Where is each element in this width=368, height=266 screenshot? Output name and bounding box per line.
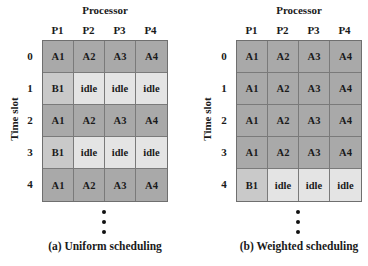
- schedule-cell: A2: [268, 41, 299, 73]
- time-slot-axis-label: Time slot: [201, 93, 213, 145]
- continuation-dot: [296, 220, 300, 224]
- schedule-cell: A1: [237, 105, 268, 137]
- row-number: 4: [218, 178, 230, 190]
- schedule-grid: A1A2A3A4A1A2A3A4A1A2A3A4A1A2A3A4B1idleid…: [236, 40, 362, 202]
- row-number: 0: [218, 50, 230, 62]
- schedule-cell: idle: [299, 169, 330, 201]
- column-header-p4: P4: [329, 24, 360, 36]
- schedule-cell: A4: [330, 41, 361, 73]
- continuation-dot: [296, 230, 300, 234]
- schedule-cell: A3: [299, 105, 330, 137]
- schedule-cell: A1: [237, 137, 268, 169]
- schedule-cell: A2: [268, 73, 299, 105]
- schedule-cell: idle: [268, 169, 299, 201]
- schedule-cell: A3: [299, 41, 330, 73]
- processor-title: Processor: [236, 4, 362, 16]
- schedule-cell: idle: [330, 169, 361, 201]
- continuation-dot: [296, 210, 300, 214]
- schedule-cell: A2: [268, 137, 299, 169]
- column-header-p1: P1: [236, 24, 267, 36]
- panel-weighted-scheduling: Processor P1 P2 P3 P4 Time slot 0 1 2 3 …: [0, 0, 368, 266]
- schedule-cell: A4: [330, 137, 361, 169]
- schedule-cell: A2: [268, 105, 299, 137]
- schedule-cell: A3: [299, 137, 330, 169]
- schedule-cell: A3: [299, 73, 330, 105]
- column-header-p3: P3: [298, 24, 329, 36]
- row-number: 1: [218, 82, 230, 94]
- column-header-p2: P2: [267, 24, 298, 36]
- row-number: 3: [218, 146, 230, 158]
- caption: (b) Weighted scheduling: [228, 240, 368, 252]
- schedule-cell: A4: [330, 105, 361, 137]
- schedule-cell: A1: [237, 41, 268, 73]
- schedule-cell: B1: [237, 169, 268, 201]
- schedule-cell: A4: [330, 73, 361, 105]
- schedule-cell: A1: [237, 73, 268, 105]
- row-number: 2: [218, 114, 230, 126]
